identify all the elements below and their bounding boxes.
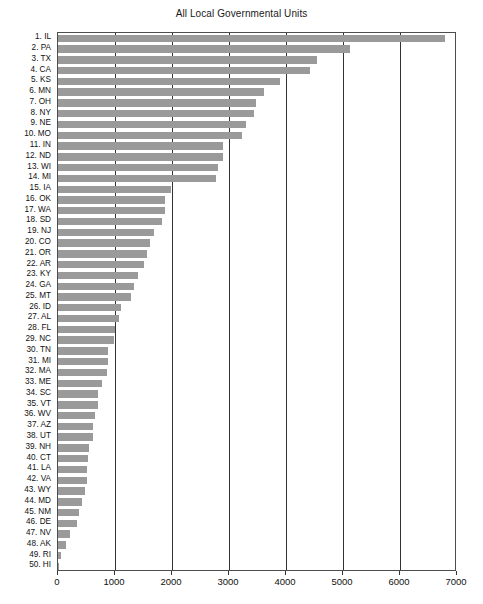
y-tick-label: 38. UT (0, 432, 51, 440)
bar (58, 423, 93, 430)
bar (58, 45, 350, 52)
bar (58, 455, 88, 462)
bar (58, 433, 93, 440)
y-tick-label: 41. LA (0, 464, 51, 472)
y-tick-label: 32. MA (0, 367, 51, 375)
y-tick-label: 34. SC (0, 389, 51, 397)
y-tick-label: 18. SD (0, 216, 51, 224)
bar (58, 530, 70, 537)
x-tick-7000 (456, 571, 457, 575)
y-tick-label: 19. NJ (0, 227, 51, 235)
chart-title: All Local Governmental Units (0, 8, 483, 19)
bar (58, 99, 256, 106)
x-tick-label: 0 (54, 577, 59, 587)
y-tick-label: 45. NM (0, 508, 51, 516)
y-tick-label: 7. OH (0, 98, 51, 106)
y-tick-label: 6. MN (0, 87, 51, 95)
bar (58, 56, 317, 63)
bar (58, 283, 134, 290)
y-tick-label: 35. VT (0, 400, 51, 408)
y-tick-label: 15. IA (0, 184, 51, 192)
bar (58, 186, 171, 193)
x-tick-label: 5000 (331, 577, 352, 587)
bar (58, 563, 59, 570)
y-tick-label: 2. PA (0, 44, 51, 52)
y-tick-label: 48. AK (0, 540, 51, 548)
x-tick-6000 (399, 571, 400, 575)
y-tick-label: 8. NY (0, 109, 51, 117)
y-tick-label: 42. VA (0, 475, 51, 483)
bar (58, 444, 89, 451)
y-tick-label: 33. ME (0, 378, 51, 386)
x-tick-label: 2000 (160, 577, 181, 587)
y-tick-label: 23. KY (0, 270, 51, 278)
x-tick-1000 (114, 571, 115, 575)
bar (58, 153, 223, 160)
y-tick-label: 24. GA (0, 281, 51, 289)
bar (58, 509, 79, 516)
bar (58, 541, 66, 548)
y-tick-label: 47. NV (0, 529, 51, 537)
bars-layer (58, 33, 455, 570)
bar (58, 132, 242, 139)
x-tick-0 (57, 571, 58, 575)
bar (58, 196, 165, 203)
y-tick-label: 22. AR (0, 260, 51, 268)
bar (58, 315, 119, 322)
y-tick-label: 29. NC (0, 335, 51, 343)
bar (58, 369, 107, 376)
plot-area (57, 32, 456, 571)
bar (58, 164, 218, 171)
bar (58, 487, 85, 494)
y-tick-label: 9. NE (0, 119, 51, 127)
x-tick-label: 1000 (103, 577, 124, 587)
y-tick-label: 40. CT (0, 454, 51, 462)
y-tick-label: 10. MO (0, 130, 51, 138)
bar (58, 35, 445, 42)
bar (58, 326, 115, 333)
y-tick-label: 37. AZ (0, 421, 51, 429)
x-tick-3000 (228, 571, 229, 575)
bar (58, 218, 162, 225)
bar (58, 142, 223, 149)
y-tick-label: 1. IL (0, 33, 51, 41)
bar (58, 304, 121, 311)
bar (58, 390, 98, 397)
x-tick-label: 6000 (388, 577, 409, 587)
y-tick-label: 44. MD (0, 497, 51, 505)
bar (58, 272, 138, 279)
x-tick-4000 (285, 571, 286, 575)
y-tick-label: 12. ND (0, 152, 51, 160)
y-tick-label: 43. WY (0, 486, 51, 494)
bar (58, 229, 154, 236)
y-tick-label: 26. ID (0, 303, 51, 311)
y-tick-label: 21. OR (0, 249, 51, 257)
bar (58, 207, 165, 214)
bar (58, 380, 102, 387)
bar (58, 477, 87, 484)
y-tick-label: 13. WI (0, 163, 51, 171)
bar (58, 336, 114, 343)
bar (58, 88, 264, 95)
bar (58, 347, 108, 354)
bar (58, 110, 254, 117)
y-tick-label: 20. CO (0, 238, 51, 246)
bar (58, 412, 95, 419)
bar (58, 250, 147, 257)
y-tick-label: 36. WV (0, 410, 51, 418)
bar (58, 78, 280, 85)
x-tick-2000 (171, 571, 172, 575)
y-tick-label: 27. AL (0, 313, 51, 321)
x-tick-label: 7000 (445, 577, 466, 587)
y-tick-label: 16. OK (0, 195, 51, 203)
y-tick-label: 4. CA (0, 66, 51, 74)
bar (58, 261, 144, 268)
y-tick-label: 31. MI (0, 357, 51, 365)
x-tick-label: 3000 (217, 577, 238, 587)
x-axis: 01000200030004000500060007000 (57, 571, 456, 601)
y-tick-label: 17. WA (0, 206, 51, 214)
y-tick-label: 28. FL (0, 324, 51, 332)
y-tick-label: 50. HI (0, 561, 51, 569)
bar (58, 498, 82, 505)
bar (58, 175, 216, 182)
